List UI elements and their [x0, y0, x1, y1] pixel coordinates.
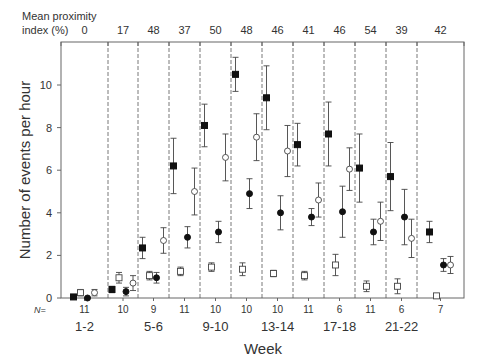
- week-label: 1-2: [75, 319, 94, 334]
- proximity-value: 17: [117, 24, 129, 36]
- n-value: 6: [399, 304, 405, 315]
- n-value: 10: [241, 304, 253, 315]
- n-label: N=: [34, 305, 46, 315]
- y-tick-label: 0: [46, 292, 52, 304]
- week-label: 17-18: [323, 319, 356, 334]
- sample-size-values: 11109111010101161167: [79, 304, 443, 315]
- marker-filled-square: [71, 294, 77, 300]
- marker-open-square: [271, 271, 277, 277]
- marker-filled-circle: [85, 295, 91, 301]
- marker-open-circle: [254, 134, 260, 140]
- proximity-value: 41: [302, 24, 314, 36]
- proximity-value: 48: [147, 24, 159, 36]
- group-dividers: [108, 42, 417, 298]
- marker-filled-circle: [278, 210, 284, 216]
- marker-open-circle: [192, 189, 198, 195]
- marker-filled-square: [140, 245, 146, 251]
- proximity-value: 37: [178, 24, 190, 36]
- marker-open-circle: [316, 197, 322, 203]
- marker-filled-circle: [123, 289, 129, 295]
- proximity-value: 50: [209, 24, 221, 36]
- marker-open-circle: [130, 280, 136, 286]
- marker-open-square: [434, 293, 440, 299]
- marker-open-circle: [223, 154, 229, 160]
- marker-filled-circle: [441, 262, 447, 268]
- n-value: 10: [117, 304, 129, 315]
- marker-filled-square: [109, 286, 115, 292]
- week-labels: 1-25-69-1013-1417-1821-22: [75, 319, 418, 334]
- marker-open-square: [209, 264, 215, 270]
- marker-filled-circle: [247, 191, 253, 197]
- marker-filled-square: [388, 174, 394, 180]
- marker-open-square: [302, 273, 308, 279]
- marker-filled-circle: [340, 209, 346, 215]
- marker-open-square: [395, 283, 401, 289]
- y-tick-label: 4: [46, 207, 52, 219]
- marker-open-square: [116, 275, 122, 281]
- marker-open-circle: [347, 166, 353, 172]
- marker-filled-square: [326, 131, 332, 137]
- top-label-line2: index (%): [22, 24, 68, 36]
- marker-open-square: [178, 268, 184, 274]
- proximity-events-chart: 0246810 01748375048464146543942 11109111…: [0, 0, 481, 362]
- marker-filled-square: [357, 165, 363, 171]
- marker-open-circle: [378, 218, 384, 224]
- marker-open-circle: [285, 148, 291, 154]
- n-value: 11: [365, 304, 376, 315]
- n-value: 10: [272, 304, 284, 315]
- proximity-value: 48: [240, 24, 252, 36]
- n-value: 10: [210, 304, 222, 315]
- marker-filled-square: [171, 163, 177, 169]
- marker-filled-square: [264, 95, 270, 101]
- proximity-value: 46: [333, 24, 345, 36]
- n-value: 7: [438, 304, 444, 315]
- marker-filled-square: [233, 71, 239, 77]
- y-tick-label: 10: [40, 79, 52, 91]
- proximity-value: 39: [395, 24, 407, 36]
- y-tick-label: 2: [46, 249, 52, 261]
- marker-open-square: [240, 266, 246, 272]
- marker-filled-square: [427, 229, 433, 235]
- plot-border: [61, 42, 464, 298]
- y-tick-label: 8: [46, 122, 52, 134]
- marker-open-circle: [448, 262, 454, 268]
- proximity-index-values: 01748375048464146543942: [81, 24, 446, 36]
- marker-filled-circle: [154, 275, 160, 281]
- n-value: 6: [337, 304, 343, 315]
- week-label: 21-22: [385, 319, 418, 334]
- top-label-line1: Mean proximity: [22, 10, 97, 22]
- marker-open-square: [78, 290, 84, 296]
- marker-open-square: [333, 262, 339, 268]
- marker-open-square: [364, 283, 370, 289]
- week-label: 5-6: [144, 319, 163, 334]
- y-axis: 0246810: [40, 42, 464, 304]
- marker-open-circle: [409, 235, 415, 241]
- marker-filled-circle: [371, 229, 377, 235]
- n-value: 9: [151, 304, 157, 315]
- week-label: 9-10: [202, 319, 228, 334]
- marker-open-circle: [92, 290, 98, 296]
- marker-open-square: [147, 273, 153, 279]
- marker-filled-square: [202, 122, 208, 128]
- proximity-value: 0: [81, 24, 87, 36]
- marker-filled-circle: [216, 229, 222, 235]
- x-axis-label: Week: [244, 340, 283, 357]
- y-tick-label: 6: [46, 164, 52, 176]
- marker-filled-circle: [402, 214, 408, 220]
- n-value: 11: [79, 304, 90, 315]
- proximity-value: 42: [434, 24, 446, 36]
- marker-filled-circle: [185, 234, 191, 240]
- proximity-value: 46: [271, 24, 283, 36]
- marker-filled-circle: [309, 214, 315, 220]
- marker-filled-square: [295, 142, 301, 148]
- proximity-value: 54: [364, 24, 376, 36]
- plot-frame: [61, 42, 464, 298]
- n-value: 11: [179, 304, 190, 315]
- marker-open-circle: [161, 237, 167, 243]
- y-axis-label: Number of events per hour: [16, 81, 33, 259]
- n-value: 11: [303, 304, 314, 315]
- week-label: 13-14: [261, 319, 294, 334]
